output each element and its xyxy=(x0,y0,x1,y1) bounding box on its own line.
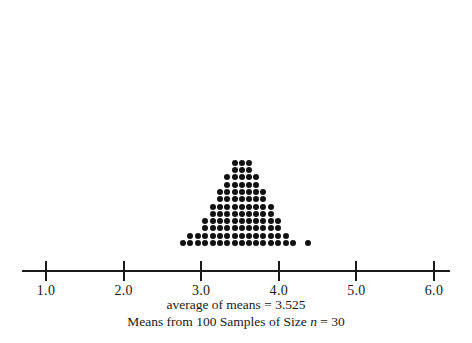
data-dot xyxy=(202,218,208,224)
data-dot xyxy=(217,233,223,239)
data-dot xyxy=(217,189,223,195)
data-dot xyxy=(283,240,289,246)
axis-tick-4.0 xyxy=(278,261,280,281)
data-dot xyxy=(268,211,274,217)
data-dot xyxy=(239,225,245,231)
data-dot xyxy=(224,218,230,224)
data-dot xyxy=(232,196,238,202)
data-dot xyxy=(232,182,238,188)
data-dot xyxy=(232,189,238,195)
data-dot xyxy=(246,182,252,188)
data-dot xyxy=(210,225,216,231)
data-dot xyxy=(202,225,208,231)
data-dot xyxy=(246,174,252,180)
data-dot xyxy=(224,233,230,239)
data-dot xyxy=(232,174,238,180)
data-dot xyxy=(239,240,245,246)
data-dot xyxy=(268,240,274,246)
data-dot xyxy=(260,218,266,224)
dotplot-plot-area xyxy=(0,0,472,250)
data-dot xyxy=(239,182,245,188)
data-dot xyxy=(232,233,238,239)
data-dot xyxy=(275,225,281,231)
caption-average-of-means: average of means = 3.525 xyxy=(0,296,472,313)
data-dot xyxy=(246,204,252,210)
axis-tick-5.0 xyxy=(355,261,357,281)
data-dot xyxy=(195,240,201,246)
caption-sample-description: Means from 100 Samples of Size n = 30 xyxy=(0,313,472,330)
data-dot xyxy=(239,204,245,210)
data-dot xyxy=(290,240,296,246)
dotplot-figure: 1.02.03.04.05.06.0 average of means = 3.… xyxy=(0,0,472,343)
caption-variable-n: n xyxy=(310,314,317,329)
data-dot xyxy=(253,196,259,202)
data-dot xyxy=(268,225,274,231)
data-dot xyxy=(253,182,259,188)
data-dot xyxy=(253,233,259,239)
data-dot xyxy=(232,160,238,166)
data-dot xyxy=(187,233,193,239)
data-dot xyxy=(217,196,223,202)
data-dot xyxy=(239,160,245,166)
data-dot xyxy=(246,240,252,246)
data-dot xyxy=(246,160,252,166)
data-dot xyxy=(232,218,238,224)
data-dot xyxy=(210,204,216,210)
data-dot xyxy=(246,225,252,231)
axis-tick-3.0 xyxy=(200,261,202,281)
data-dot xyxy=(275,233,281,239)
data-dot xyxy=(260,189,266,195)
data-dot xyxy=(224,204,230,210)
figure-caption: average of means = 3.525 Means from 100 … xyxy=(0,296,472,330)
data-dot xyxy=(246,211,252,217)
data-dot xyxy=(283,233,289,239)
data-dot xyxy=(239,196,245,202)
data-dot xyxy=(202,233,208,239)
data-dot xyxy=(232,204,238,210)
data-dot xyxy=(246,218,252,224)
data-dot xyxy=(195,233,201,239)
data-dot xyxy=(232,167,238,173)
data-dot xyxy=(239,174,245,180)
data-dot xyxy=(210,211,216,217)
data-dot xyxy=(246,233,252,239)
axis-tick-2.0 xyxy=(123,261,125,281)
data-dot xyxy=(253,189,259,195)
data-dot xyxy=(253,240,259,246)
axis-tick-1.0 xyxy=(45,261,47,281)
data-dot xyxy=(260,196,266,202)
data-dot xyxy=(224,196,230,202)
data-dot xyxy=(260,211,266,217)
data-dot xyxy=(217,218,223,224)
data-dot xyxy=(180,240,186,246)
data-dot xyxy=(253,218,259,224)
caption-text-pre: Means from 100 Samples of Size xyxy=(127,314,310,329)
data-dot xyxy=(246,196,252,202)
data-dot xyxy=(275,218,281,224)
data-dot xyxy=(224,240,230,246)
data-dot xyxy=(224,211,230,217)
data-dot xyxy=(232,211,238,217)
data-dot xyxy=(305,240,311,246)
data-dot xyxy=(260,240,266,246)
data-dot xyxy=(210,218,216,224)
data-dot xyxy=(239,189,245,195)
data-dot xyxy=(232,240,238,246)
data-dot xyxy=(253,211,259,217)
data-dot xyxy=(224,182,230,188)
data-dot xyxy=(275,240,281,246)
data-dot xyxy=(268,204,274,210)
data-dot xyxy=(239,167,245,173)
data-dot xyxy=(246,167,252,173)
data-dot xyxy=(260,225,266,231)
data-dot xyxy=(202,240,208,246)
axis-tick-6.0 xyxy=(433,261,435,281)
x-axis: 1.02.03.04.05.06.0 xyxy=(0,250,472,300)
data-dot xyxy=(268,233,274,239)
data-dot xyxy=(239,218,245,224)
data-dot xyxy=(260,233,266,239)
data-dot xyxy=(210,240,216,246)
data-dot xyxy=(246,189,252,195)
data-dot xyxy=(217,204,223,210)
data-dot xyxy=(217,211,223,217)
